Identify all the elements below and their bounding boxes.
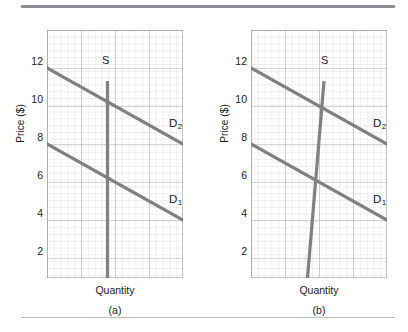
plot-svg-b: [251, 30, 387, 278]
y-tick-label: 12: [225, 56, 247, 67]
bottom-divider-rule: [21, 317, 395, 318]
demand-label-subscript: 2: [382, 122, 386, 131]
plot-area-a: S D2 D1: [47, 30, 183, 278]
y-tick-label: 10: [225, 94, 247, 105]
panel-b: Price ($) 12 10 8 6 4 2: [204, 22, 408, 314]
y-tick-label: 8: [21, 132, 43, 143]
demand-label-letter: D: [169, 117, 177, 129]
y-tick-label: 2: [21, 246, 43, 257]
demand-label-subscript: 2: [178, 122, 182, 131]
demand-curve-label-d1-a: D1: [169, 194, 182, 206]
y-tick-column-b: 12 10 8 6 4 2: [223, 30, 247, 278]
demand-label-subscript: 1: [382, 198, 386, 207]
figure-root: Price ($) 12 10 8 6 4 2: [0, 0, 408, 332]
y-tick-label: 4: [225, 208, 247, 219]
y-tick-label: 6: [225, 170, 247, 181]
demand-label-letter: D: [169, 193, 177, 205]
panel-a: Price ($) 12 10 8 6 4 2: [0, 22, 204, 314]
demand-curve-label-d2-a: D2: [169, 118, 182, 130]
y-tick-label: 8: [225, 132, 247, 143]
y-tick-label: 12: [21, 56, 43, 67]
demand-label-subscript: 1: [178, 198, 182, 207]
y-tick-label: 6: [21, 170, 43, 181]
plot-svg-a: [47, 30, 183, 278]
panel-caption-a: (a): [47, 304, 183, 316]
demand-curve-label-d2-b: D2: [373, 118, 386, 130]
supply-curve-label-b: S: [321, 55, 328, 66]
y-tick-column-a: 12 10 8 6 4 2: [19, 30, 43, 278]
demand-curve-label-d1-b: D1: [373, 194, 386, 206]
plot-area-b: S D2 D1: [251, 30, 387, 278]
top-divider-rule: [21, 5, 395, 8]
x-axis-title-a: Quantity: [47, 284, 183, 296]
y-tick-label: 2: [225, 246, 247, 257]
y-tick-label: 4: [21, 208, 43, 219]
demand-label-letter: D: [373, 117, 381, 129]
x-axis-title-b: Quantity: [251, 284, 387, 296]
y-tick-label: 10: [21, 94, 43, 105]
demand-label-letter: D: [373, 193, 381, 205]
panel-caption-b: (b): [251, 304, 387, 316]
supply-curve-label-a: S: [102, 55, 109, 66]
